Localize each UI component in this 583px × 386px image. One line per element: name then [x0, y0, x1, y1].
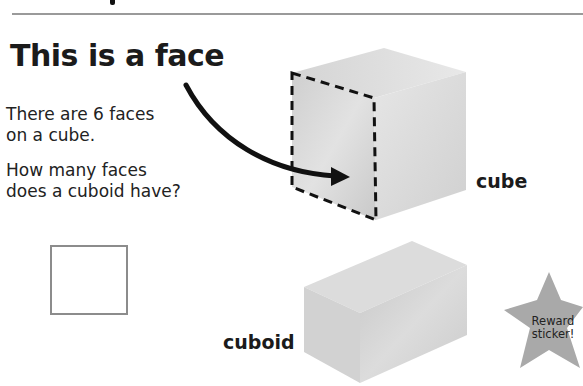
cube-right-face	[374, 72, 466, 220]
cuboid-label: cuboid	[223, 331, 295, 353]
cube-label: cube	[476, 170, 527, 192]
illustrations	[0, 0, 583, 386]
reward-sticker-text: Reward sticker!	[523, 315, 583, 341]
cuboid-illustration	[304, 241, 467, 383]
sticker-line-2: sticker!	[523, 328, 583, 341]
cube-front-face	[292, 73, 376, 220]
cube-illustration	[292, 48, 466, 220]
